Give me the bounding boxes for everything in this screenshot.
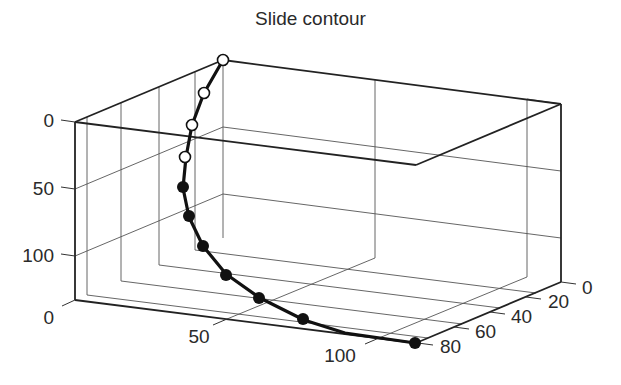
contour-markers [177, 55, 421, 350]
tick-labels: 0 50 100 0 50 100 0 20 40 60 80 [22, 110, 592, 366]
y-tick-80: 80 [440, 336, 461, 357]
y-tick-0: 0 [582, 277, 593, 298]
tick-marks [61, 120, 576, 345]
filled-marker [183, 210, 195, 222]
y-tick-20: 20 [548, 291, 569, 312]
slide-contour-chart: Slide contour [0, 0, 621, 385]
grid-lines [75, 60, 561, 338]
contour-line [183, 60, 415, 343]
axes-box [75, 60, 561, 343]
x-tick-0: 0 [43, 307, 54, 328]
x-tick-50: 50 [188, 326, 209, 347]
y-tick-60: 60 [475, 321, 496, 342]
x-tick-100: 100 [324, 345, 356, 366]
chart-plot-area: 0 50 100 0 50 100 0 20 40 60 80 [0, 0, 621, 385]
open-marker [180, 152, 191, 163]
chart-title: Slide contour [0, 8, 621, 30]
filled-marker [220, 269, 232, 281]
filled-marker [297, 313, 309, 325]
open-marker [187, 120, 198, 131]
filled-marker [177, 181, 189, 193]
filled-marker [253, 292, 265, 304]
open-marker [199, 88, 210, 99]
z-tick-100: 100 [22, 245, 54, 266]
z-tick-0: 0 [43, 110, 54, 131]
z-tick-50: 50 [33, 178, 54, 199]
filled-marker [197, 240, 209, 252]
filled-marker [409, 337, 421, 349]
y-tick-40: 40 [511, 306, 532, 327]
open-marker [218, 55, 229, 66]
